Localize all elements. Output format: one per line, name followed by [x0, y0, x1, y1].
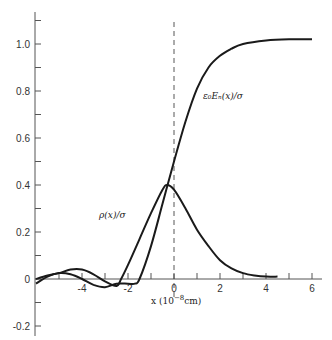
- y-tick-label: -0.2: [13, 321, 31, 332]
- chart: -0.200.20.40.60.81.0-4-20246 ε₀Eₙ(x)/σ ρ…: [0, 0, 332, 340]
- x-tick-label: 6: [309, 283, 315, 294]
- x-axis-title-unit: cm): [184, 296, 201, 306]
- y-tick-label: 0: [24, 274, 30, 285]
- y-tick-label: 0.2: [16, 227, 30, 238]
- x-tick-label: 4: [263, 283, 269, 294]
- y-tick-label: 0.6: [16, 133, 30, 144]
- x-tick-label: -4: [78, 283, 87, 294]
- y-tick-label: 1.0: [16, 39, 30, 50]
- y-tick-label: 0.4: [16, 180, 30, 191]
- rho-curve-label: ρ(x)/σ: [98, 210, 126, 220]
- x-axis-title-base: x (10: [151, 296, 174, 306]
- y-tick-label: 0.8: [16, 86, 30, 97]
- axes: -0.200.20.40.60.81.0-4-20246: [13, 12, 322, 336]
- x-axis-title-exp: −8: [174, 294, 184, 302]
- charge-density-curve: [36, 185, 278, 286]
- e-curve-label: ε₀Eₙ(x)/σ: [203, 91, 244, 101]
- x-tick-label: 2: [217, 283, 223, 294]
- x-axis-title: x (10−8cm): [151, 294, 201, 306]
